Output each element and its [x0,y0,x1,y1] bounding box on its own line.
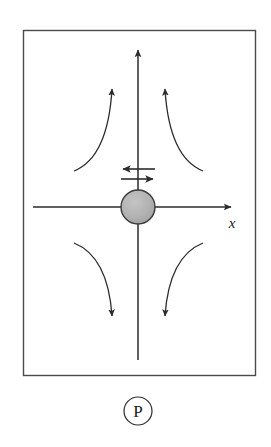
panel-label-text: P [133,402,142,421]
x-axis-label: x [228,215,236,231]
figure-container: x P [0,0,271,447]
central-particle [121,190,155,224]
flow-field-diagram: x P [0,0,271,447]
